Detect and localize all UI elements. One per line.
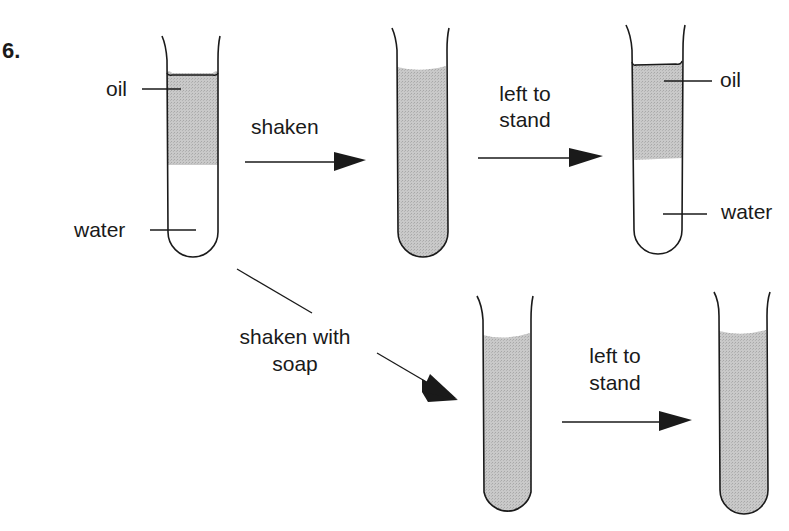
label-water-initial: water [74, 218, 125, 242]
label-left-to-stand-top-2: stand [490, 108, 560, 132]
label-water-final: water [721, 200, 772, 224]
test-tube-emulsion [477, 296, 533, 511]
label-shaken: shaken [251, 115, 319, 139]
label-left-to-stand-bottom-2: stand [580, 371, 650, 395]
test-tube-initial [142, 36, 220, 257]
question-number: 6. [2, 38, 20, 64]
label-left-to-stand-bottom-1: left to [580, 344, 650, 368]
arrow-shaken [245, 152, 366, 171]
label-oil-initial: oil [106, 77, 127, 101]
arrow-left-to-stand-bottom [562, 411, 692, 431]
test-tube-shaken [392, 28, 449, 257]
test-tube-emulsion-stood [714, 292, 770, 514]
test-tube-separated [626, 25, 712, 254]
arrow-left-to-stand-top [478, 148, 603, 167]
label-oil-final: oil [720, 68, 741, 92]
label-shaken-with-soap-1: shaken with [220, 325, 370, 349]
label-shaken-with-soap-2: soap [220, 352, 370, 376]
label-left-to-stand-top-1: left to [490, 82, 560, 106]
